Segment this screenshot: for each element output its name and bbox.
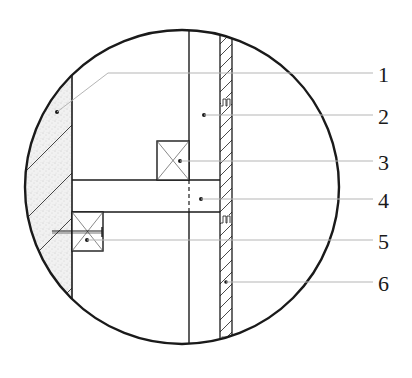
callout-label-1: 1	[378, 62, 389, 87]
callout-label-4: 4	[378, 188, 389, 213]
clip-icon-upper	[221, 98, 231, 106]
horizontal-joist	[72, 180, 220, 212]
callout-label-5: 5	[378, 229, 389, 254]
vertical-stud	[189, 0, 206, 378]
detail-diagram: 1 2 3 4 5 6	[0, 0, 412, 378]
callout-label-2: 2	[378, 104, 389, 129]
callout-label-3: 3	[378, 150, 389, 175]
callout-labels: 1 2 3 4 5 6	[378, 62, 389, 296]
leader-1	[57, 73, 373, 112]
callout-label-6: 6	[378, 271, 389, 296]
clip-icon-middle	[221, 215, 231, 223]
hatched-board	[220, 0, 232, 378]
masonry-wall	[0, 0, 72, 378]
detail-contents	[0, 0, 232, 378]
